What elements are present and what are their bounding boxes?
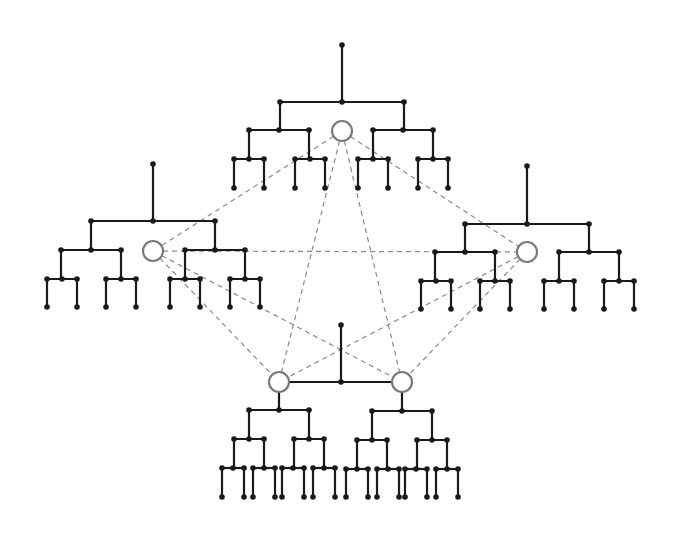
tree-node xyxy=(365,466,371,472)
tree-node xyxy=(601,278,607,284)
bottom-left-tree xyxy=(219,392,338,500)
tree-node xyxy=(586,249,592,255)
right-tree xyxy=(418,163,637,312)
bottom-connector xyxy=(338,322,344,385)
tree-node xyxy=(430,156,436,162)
edge-left-bottom-right xyxy=(162,256,393,378)
tree-node xyxy=(524,163,530,169)
tree-node xyxy=(385,466,391,472)
tree-node xyxy=(261,436,267,442)
tree-node xyxy=(197,304,203,310)
tree-node xyxy=(414,437,420,443)
tree-node xyxy=(586,221,592,227)
tree-node xyxy=(150,161,156,167)
tree-node xyxy=(418,278,424,284)
edge-top-left xyxy=(161,136,333,245)
tree-node xyxy=(424,494,430,500)
tree-node xyxy=(571,306,577,312)
tree-node xyxy=(445,185,451,191)
tree-node xyxy=(322,156,328,162)
tree-node xyxy=(74,304,80,310)
tree-node xyxy=(448,278,454,284)
tree-node xyxy=(400,127,406,133)
tree-node xyxy=(369,437,375,443)
tree-node xyxy=(462,221,468,227)
tree-node xyxy=(242,247,248,253)
left-tree xyxy=(44,161,263,310)
tree-node xyxy=(418,306,424,312)
tree-node xyxy=(307,156,313,162)
tree-node xyxy=(301,465,307,471)
tree-node xyxy=(150,218,156,224)
tree-node xyxy=(413,466,419,472)
tree-node xyxy=(433,494,439,500)
tree-node xyxy=(462,249,468,255)
hub-node-bottom-right xyxy=(392,372,412,392)
tree-node xyxy=(444,437,450,443)
k5-tree-diagram xyxy=(0,0,674,546)
tree-node xyxy=(343,494,349,500)
tree-node xyxy=(322,185,328,191)
tree-node xyxy=(507,306,513,312)
tree-node xyxy=(58,247,64,253)
tree-node xyxy=(246,407,252,413)
tree-node xyxy=(231,156,237,162)
tree-node xyxy=(292,185,298,191)
tree-node xyxy=(182,276,188,282)
tree-node xyxy=(279,465,285,471)
edge-top-right xyxy=(350,136,518,246)
tree-node xyxy=(445,156,451,162)
tree-node xyxy=(370,156,376,162)
top-tree xyxy=(231,42,451,191)
tree-node xyxy=(384,437,390,443)
tree-node xyxy=(44,304,50,310)
tree-node xyxy=(339,99,345,105)
tree-node xyxy=(230,465,236,471)
bottom-right-tree xyxy=(343,392,461,500)
tree-node xyxy=(355,185,361,191)
tree-node xyxy=(415,185,421,191)
tree-node xyxy=(402,494,408,500)
tree-node xyxy=(433,466,439,472)
tree-node xyxy=(310,465,316,471)
tree-node xyxy=(492,249,498,255)
tree-node xyxy=(212,247,218,253)
tree-node xyxy=(430,127,436,133)
tree-node xyxy=(241,494,247,500)
tree-node xyxy=(429,437,435,443)
hub-node-top xyxy=(332,121,352,141)
tree-node xyxy=(227,304,233,310)
tree-node xyxy=(338,379,344,385)
tree-node xyxy=(231,436,237,442)
tree-node xyxy=(477,278,483,284)
tree-node xyxy=(257,276,263,282)
tree-node xyxy=(167,276,173,282)
tree-node xyxy=(133,276,139,282)
tree-node xyxy=(246,436,252,442)
tree-node xyxy=(59,276,65,282)
tree-node xyxy=(424,466,430,472)
tree-node xyxy=(103,304,109,310)
tree-node xyxy=(306,436,312,442)
tree-node xyxy=(231,185,237,191)
tree-node xyxy=(197,276,203,282)
tree-node xyxy=(432,249,438,255)
tree-node xyxy=(556,278,562,284)
tree-node xyxy=(354,437,360,443)
edge-left-bottom-left xyxy=(160,258,272,375)
tree-node xyxy=(616,249,622,255)
tree-node xyxy=(332,465,338,471)
tree-node xyxy=(401,99,407,105)
tree-node xyxy=(541,278,547,284)
tree-node xyxy=(541,306,547,312)
edge-top-bottom-right xyxy=(344,141,399,373)
tree-node xyxy=(444,466,450,472)
tree-node xyxy=(246,127,252,133)
tree-node xyxy=(477,306,483,312)
tree-node xyxy=(118,247,124,253)
tree-node xyxy=(306,127,312,133)
tree-node xyxy=(103,276,109,282)
tree-node xyxy=(332,494,338,500)
tree-node xyxy=(354,466,360,472)
tree-node xyxy=(212,218,218,224)
